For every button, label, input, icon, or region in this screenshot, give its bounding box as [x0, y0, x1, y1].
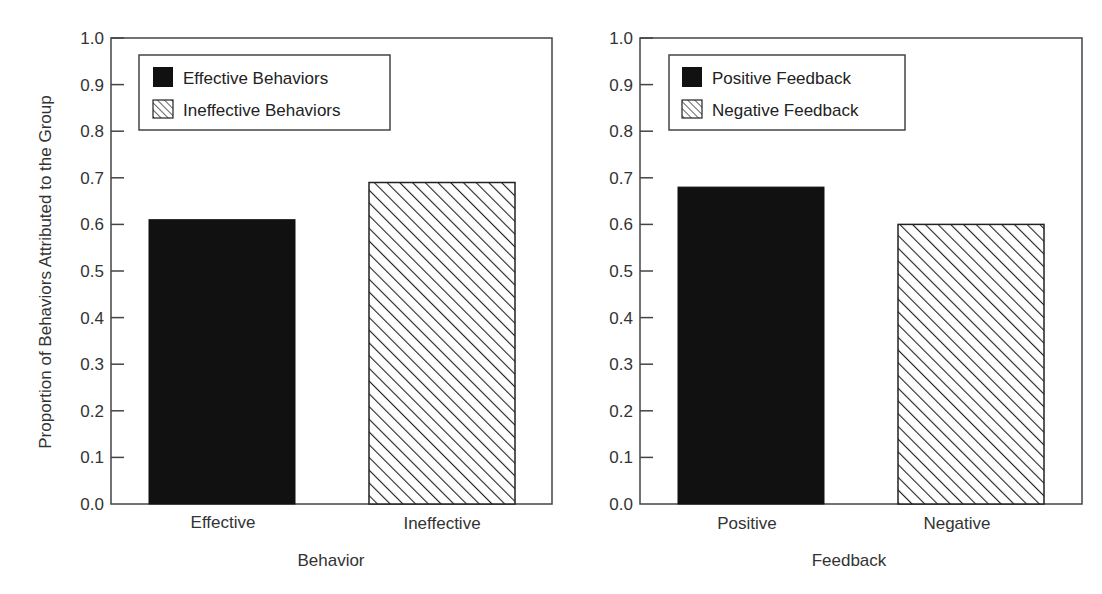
right-y-axis: 0.0 0.1 0.2 0.3 0.4 0.5 0.6 0.7 0.8 0.9 …: [609, 29, 653, 514]
left-y-axis: 0.0 0.1 0.2 0.3 0.4 0.5 0.6 0.7 0.8 0.9 …: [80, 29, 124, 514]
legend-label-positive: Positive Feedback: [712, 69, 851, 88]
bar-negative: [898, 224, 1044, 504]
tick-label: 0.8: [609, 122, 633, 141]
tick-label: 0.2: [80, 402, 104, 421]
legend-label-ineffective: Ineffective Behaviors: [183, 101, 341, 120]
tick-label: 0.1: [609, 448, 633, 467]
legend-swatch-hatched: [153, 100, 173, 118]
tick-label: 0.5: [609, 262, 633, 281]
tick-label: 0.6: [609, 215, 633, 234]
bar-effective: [149, 220, 295, 504]
category-label-negative: Negative: [923, 514, 990, 533]
left-chart: Proportion of Behaviors Attributed to th…: [36, 29, 552, 570]
tick-label: 0.7: [609, 169, 633, 188]
tick-label: 0.9: [80, 76, 104, 95]
tick-label: 0.7: [80, 169, 104, 188]
tick-label: 0.2: [609, 402, 633, 421]
tick-label: 0.9: [609, 76, 633, 95]
bar-positive: [678, 187, 824, 504]
category-label-ineffective: Ineffective: [403, 514, 480, 533]
tick-label: 0.6: [80, 215, 104, 234]
legend-swatch-hatched: [682, 100, 702, 118]
category-label-effective: Effective: [191, 513, 256, 532]
tick-label: 0.3: [80, 355, 104, 374]
tick-label: 0.4: [609, 309, 633, 328]
tick-label: 0.3: [609, 355, 633, 374]
figure: Proportion of Behaviors Attributed to th…: [0, 0, 1102, 594]
tick-label: 0.4: [80, 309, 104, 328]
category-label-positive: Positive: [717, 514, 777, 533]
tick-label: 0.0: [80, 495, 104, 514]
legend-swatch-solid: [153, 67, 173, 87]
tick-label: 0.5: [80, 262, 104, 281]
left-y-axis-title: Proportion of Behaviors Attributed to th…: [36, 95, 55, 448]
legend-label-negative: Negative Feedback: [712, 101, 859, 120]
right-legend: Positive Feedback Negative Feedback: [669, 55, 905, 130]
legend-label-effective: Effective Behaviors: [183, 69, 328, 88]
bar-ineffective: [369, 183, 515, 505]
tick-label: 1.0: [609, 29, 633, 48]
tick-label: 0.1: [80, 448, 104, 467]
right-chart: 0.0 0.1 0.2 0.3 0.4 0.5 0.6 0.7 0.8 0.9 …: [609, 29, 1082, 570]
legend-swatch-solid: [682, 67, 702, 87]
tick-label: 0.0: [609, 495, 633, 514]
right-x-axis-title: Feedback: [812, 551, 887, 570]
tick-label: 1.0: [80, 29, 104, 48]
tick-label: 0.8: [80, 122, 104, 141]
left-legend: Effective Behaviors Ineffective Behavior…: [139, 55, 390, 130]
left-x-axis-title: Behavior: [297, 551, 364, 570]
